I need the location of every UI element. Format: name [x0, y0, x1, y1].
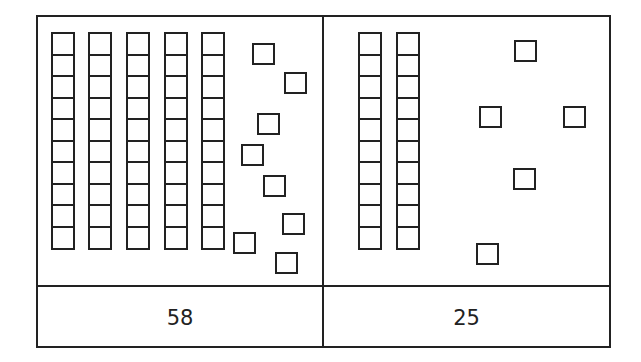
rod-unit [358, 118, 382, 142]
rod-unit [358, 97, 382, 121]
rod-unit [164, 75, 188, 99]
rod-unit [358, 75, 382, 99]
ones-cube [257, 113, 280, 135]
tens-rod [88, 32, 112, 250]
rod-unit [201, 183, 225, 207]
rod-unit [358, 183, 382, 207]
rod-unit [396, 118, 420, 142]
rod-unit [126, 118, 150, 142]
rod-unit [396, 183, 420, 207]
rod-unit [164, 226, 188, 250]
rod-unit [396, 204, 420, 228]
ones-cube [263, 175, 286, 197]
rod-unit [51, 118, 75, 142]
rod-unit [126, 140, 150, 164]
rod-unit [126, 97, 150, 121]
ones-cube [275, 252, 298, 274]
rod-unit [201, 204, 225, 228]
rod-unit [396, 161, 420, 185]
ones-cube [241, 144, 264, 166]
ones-cube [479, 106, 502, 128]
rod-unit [164, 161, 188, 185]
rod-unit [164, 54, 188, 78]
rod-unit [126, 183, 150, 207]
rod-unit [396, 54, 420, 78]
rod-unit [201, 97, 225, 121]
ones-cube [282, 213, 305, 235]
rod-unit [358, 161, 382, 185]
rod-unit [126, 32, 150, 56]
ones-cube [563, 106, 586, 128]
ones-cube [252, 43, 275, 65]
rod-unit [126, 161, 150, 185]
rod-unit [396, 97, 420, 121]
ones-cube [284, 72, 307, 94]
rod-unit [201, 32, 225, 56]
tens-rod [51, 32, 75, 250]
rod-unit [358, 226, 382, 250]
value-label-left: 58 [38, 287, 322, 348]
rod-unit [126, 75, 150, 99]
rod-unit [51, 97, 75, 121]
rod-unit [396, 140, 420, 164]
tens-rod [164, 32, 188, 250]
rod-unit [51, 161, 75, 185]
rod-unit [201, 75, 225, 99]
rod-unit [201, 118, 225, 142]
tens-rod [126, 32, 150, 250]
rod-unit [201, 140, 225, 164]
rod-unit [51, 32, 75, 56]
rod-unit [88, 183, 112, 207]
rod-unit [51, 75, 75, 99]
rod-unit [358, 54, 382, 78]
rod-unit [88, 140, 112, 164]
rod-unit [88, 75, 112, 99]
ones-cube [476, 243, 499, 265]
rod-unit [88, 32, 112, 56]
tens-rod [358, 32, 382, 250]
rod-unit [396, 32, 420, 56]
value-label-right: 25 [324, 287, 609, 348]
rod-unit [396, 226, 420, 250]
rod-unit [164, 97, 188, 121]
rod-unit [164, 118, 188, 142]
rod-unit [51, 183, 75, 207]
rod-unit [51, 54, 75, 78]
rod-unit [164, 140, 188, 164]
rod-unit [126, 226, 150, 250]
ones-cube [514, 40, 537, 62]
rod-unit [88, 97, 112, 121]
rod-unit [88, 226, 112, 250]
rod-unit [358, 140, 382, 164]
rod-unit [51, 226, 75, 250]
rod-unit [88, 54, 112, 78]
rod-unit [201, 54, 225, 78]
tens-rod [201, 32, 225, 250]
rod-unit [88, 204, 112, 228]
rod-unit [201, 161, 225, 185]
rod-unit [164, 32, 188, 56]
rod-unit [126, 54, 150, 78]
rod-unit [396, 75, 420, 99]
rod-unit [51, 140, 75, 164]
ones-cube [513, 168, 536, 190]
rod-unit [358, 32, 382, 56]
rod-unit [358, 204, 382, 228]
rod-unit [88, 118, 112, 142]
rod-unit [88, 161, 112, 185]
rod-unit [126, 204, 150, 228]
ones-cube [233, 232, 256, 254]
tens-rod [396, 32, 420, 250]
rod-unit [201, 226, 225, 250]
rod-unit [164, 204, 188, 228]
rod-unit [164, 183, 188, 207]
rod-unit [51, 204, 75, 228]
